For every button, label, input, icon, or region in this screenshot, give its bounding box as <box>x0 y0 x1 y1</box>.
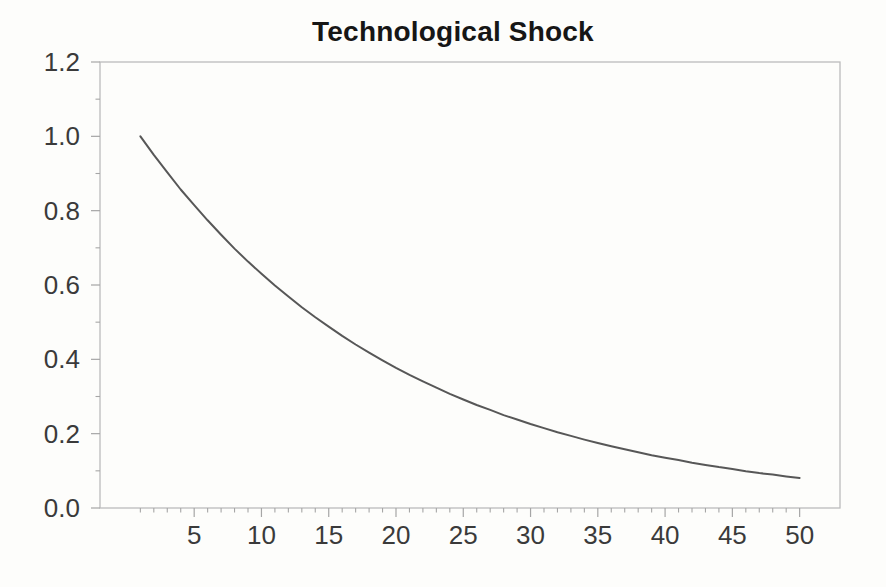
y-tick-label: 0.8 <box>44 196 80 226</box>
x-tick-label: 10 <box>247 520 276 550</box>
x-tick-label: 30 <box>516 520 545 550</box>
y-tick-label: 0.4 <box>44 344 80 374</box>
shock-response-curve <box>140 136 799 478</box>
x-tick-label: 15 <box>314 520 343 550</box>
x-tick-label: 20 <box>382 520 411 550</box>
y-tick-label: 0.6 <box>44 270 80 300</box>
x-tick-label: 35 <box>583 520 612 550</box>
y-tick-label: 0.0 <box>44 493 80 523</box>
x-tick-label: 5 <box>187 520 201 550</box>
plot-frame <box>100 62 840 508</box>
x-tick-label: 40 <box>651 520 680 550</box>
line-chart: 51015202530354045500.00.20.40.60.81.01.2 <box>0 0 886 587</box>
x-tick-label: 25 <box>449 520 478 550</box>
y-tick-label: 1.2 <box>44 47 80 77</box>
x-tick-label: 45 <box>718 520 747 550</box>
x-tick-label: 50 <box>785 520 814 550</box>
y-tick-label: 0.2 <box>44 419 80 449</box>
figure-page: Technological Shock 51015202530354045500… <box>0 0 886 587</box>
y-tick-label: 1.0 <box>44 121 80 151</box>
